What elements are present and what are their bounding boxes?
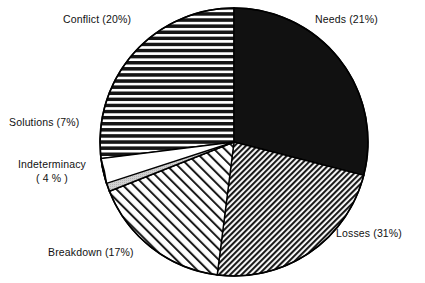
slice-label-needs: Needs (21%) [315, 13, 378, 26]
slice-label-breakdown: Breakdown (17%) [48, 246, 134, 259]
slice-label-conflict: Conflict (20%) [63, 13, 131, 26]
slice-label-losses: Losses (31%) [336, 227, 402, 240]
pie-chart-figure: Conflict (20%) Needs (21%) Solutions (7%… [0, 0, 425, 283]
slice-label-indeterminacy-percent: ( 4 % ) [4, 171, 100, 185]
pie-chart-canvas [0, 0, 425, 283]
slice-label-indeterminacy: Indeterminacy ( 4 % ) [4, 157, 100, 185]
slice-label-indeterminacy-name: Indeterminacy [4, 157, 100, 171]
slice-label-solutions: Solutions (7%) [9, 116, 79, 129]
